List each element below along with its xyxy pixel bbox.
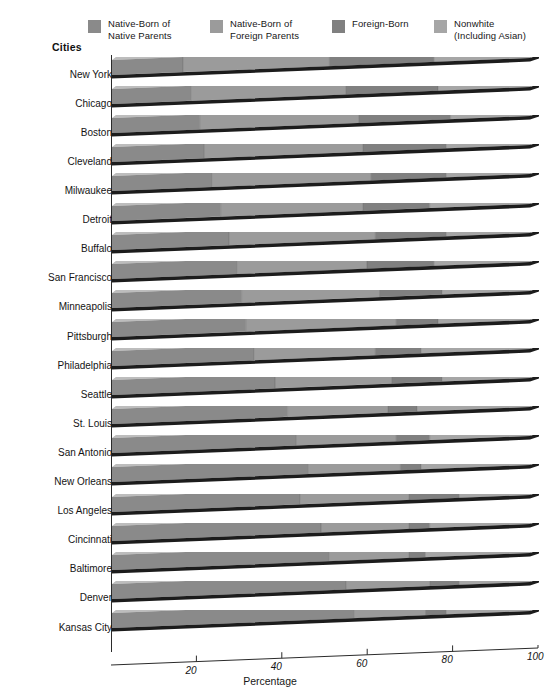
chart-row: Chicago (0, 86, 540, 114)
chart-row: Kansas City (0, 610, 540, 638)
chart-row: Denver (0, 581, 540, 609)
chart-row: Detroit (0, 203, 540, 231)
legend-item-1: Native-Born of Foreign Parents (210, 18, 299, 41)
y-axis-tick-label: Detroit (0, 214, 112, 225)
chart-row: Los Angeles (0, 494, 540, 522)
y-axis-tick-label: New York (0, 69, 112, 80)
y-axis-tick-label: Baltimore (0, 563, 112, 574)
x-axis-tick-label: 100 (527, 651, 544, 662)
figure-caption (46, 694, 526, 700)
y-axis-tick-label: Seattle (0, 389, 112, 400)
y-axis-tick-label: Denver (0, 592, 112, 603)
legend-label: Native-Born of Foreign Parents (230, 18, 299, 41)
legend-swatch-icon (332, 20, 345, 33)
y-axis-tick-label: San Antonio (0, 447, 112, 458)
y-axis-tick-label: Buffalo (0, 243, 112, 254)
legend-label: Native-Born of Native Parents (108, 18, 172, 41)
bar-segment[interactable] (409, 523, 430, 529)
bar-segment[interactable] (426, 610, 447, 615)
chart-row: Cincinnati (0, 523, 540, 551)
chart-row: Pittsburgh (0, 319, 540, 347)
y-axis-tick-label: Kansas City (0, 622, 112, 633)
chart-row: Buffalo (0, 232, 540, 260)
legend-swatch-icon (210, 20, 223, 33)
y-axis-tick-label: Boston (0, 127, 112, 138)
y-axis-tick-label: Los Angeles (0, 505, 112, 516)
y-axis-tick-label: Cincinnati (0, 534, 112, 545)
chart-row: New York (0, 57, 540, 85)
chart-row: Philadelphia (0, 348, 540, 376)
y-axis-tick-label: San Francisco (0, 272, 112, 283)
legend-label: Foreign-Born (352, 18, 409, 30)
chart-plot-area: New YorkChicagoBostonClevelandMilwaukeeD… (0, 55, 540, 660)
bar-segment[interactable] (388, 406, 417, 413)
y-axis-tick-label: Pittsburgh (0, 331, 112, 342)
y-axis-title: Cities (52, 41, 82, 53)
chart-row: New Orleans (0, 464, 540, 492)
chart-row: Cleveland (0, 144, 540, 172)
legend-swatch-icon (434, 20, 447, 33)
chart-row: Minneapolis (0, 290, 540, 318)
y-axis-tick-label: St. Louis (0, 418, 112, 429)
legend-item-0: Native-Born of Native Parents (88, 18, 172, 41)
chart-row: Baltimore (0, 552, 540, 580)
bar-segment[interactable] (409, 552, 426, 558)
legend-item-2: Foreign-Born (332, 18, 409, 33)
y-axis-tick-label: New Orleans (0, 476, 112, 487)
bar-segment[interactable] (112, 57, 183, 75)
x-axis-line (111, 648, 538, 665)
x-axis-tick-label: 80 (442, 654, 453, 665)
y-axis-tick-label: Minneapolis (0, 301, 112, 312)
stacked-bar[interactable] (112, 610, 549, 644)
chart-row: Milwaukee (0, 173, 540, 201)
chart-row: Seattle (0, 377, 540, 405)
y-axis-tick-label: Philadelphia (0, 360, 112, 371)
legend-label: Nonwhite (Including Asian) (454, 18, 526, 41)
legend-swatch-icon (88, 20, 101, 33)
y-axis-tick-label: Chicago (0, 98, 112, 109)
x-axis-tick-label: 60 (356, 658, 367, 669)
x-axis-tick-label: 40 (271, 661, 282, 672)
chart-row: San Antonio (0, 435, 540, 463)
chart-row: San Francisco (0, 261, 540, 289)
x-axis-tick-label: 20 (185, 665, 196, 676)
legend-item-3: Nonwhite (Including Asian) (434, 18, 526, 41)
chart-row: St. Louis (0, 406, 540, 434)
y-axis-tick-label: Cleveland (0, 156, 112, 167)
bar-segment[interactable] (400, 464, 421, 470)
y-axis-tick-label: Milwaukee (0, 185, 112, 196)
chart-row: Boston (0, 115, 540, 143)
